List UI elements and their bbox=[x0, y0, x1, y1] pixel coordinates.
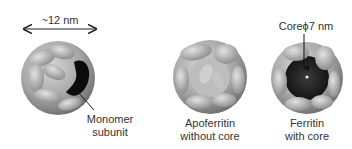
ferritin-core-model bbox=[271, 34, 343, 114]
ferritin-label: Ferritin with core bbox=[272, 117, 342, 143]
apoferritin-model bbox=[173, 40, 247, 114]
ferritin-shell-model bbox=[21, 41, 95, 115]
core-annotation: Coreϕ7 nm bbox=[266, 20, 346, 33]
apoferritin-label: Apoferritin without core bbox=[170, 117, 250, 143]
scale-label: ~12 nm bbox=[40, 14, 80, 27]
monomer-subunit-label: Monomer subunit bbox=[80, 113, 140, 139]
